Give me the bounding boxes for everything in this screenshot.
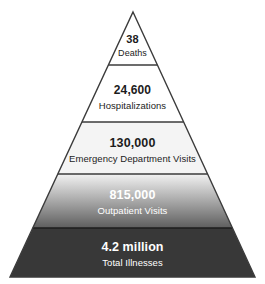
pyramid-tier-outpatient-visits (33, 174, 233, 228)
pyramid-tier-deaths (108, 12, 157, 65)
pyramid-shape (0, 0, 265, 284)
illness-severity-pyramid: 38 Deaths 24,600 Hospitalizations 130,00… (0, 0, 265, 284)
pyramid-tier-total-illnesses (10, 228, 255, 277)
pyramid-tier-hospitalizations (82, 65, 184, 122)
pyramid-tier-emergency-department-visits (58, 122, 208, 174)
pyramid-tier-fills (10, 12, 255, 277)
